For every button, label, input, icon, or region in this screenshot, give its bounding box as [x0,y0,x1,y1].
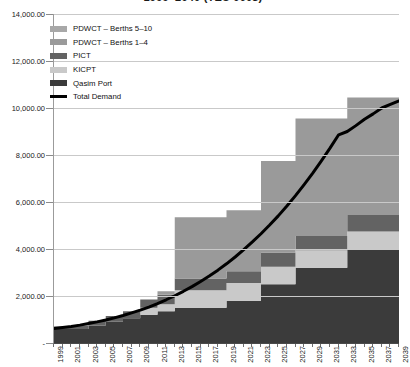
x-axis-tick-label: 2009 [142,346,151,363]
x-axis-tick-label: 2031 [332,346,341,363]
chart-title: 1999–2040 (TEU 000s) [0,0,406,3]
legend-item[interactable]: Total Demand [50,90,152,104]
x-axis-tick-label: 2027 [298,346,307,363]
y-axis-tick [46,296,53,297]
x-axis-tick-label: 2019 [229,346,238,363]
legend-item-label: PDWCT – Berths 1–4 [73,38,148,47]
x-axis-tick [312,344,313,347]
legend-item-label: PICT [73,51,91,60]
x-axis-tick [174,344,175,347]
y-axis-tick-label: 14,000.00 [12,10,45,19]
y-axis-tick [46,108,53,109]
gridline [54,296,399,297]
x-axis-tick [381,344,382,347]
y-axis-tick [46,155,53,156]
legend-swatch-icon [50,67,67,73]
legend-item[interactable]: KICPT [50,63,152,77]
legend-swatch-icon [50,26,67,32]
y-axis-tick-label: 12,000.00 [12,57,45,66]
x-axis-tick-label: 1999 [56,346,65,363]
x-axis-tick-label: 2005 [108,346,117,363]
legend-swatch-icon [50,39,67,45]
x-axis-tick-label: 2013 [177,346,186,363]
legend-item[interactable]: Qasim Port [50,76,152,90]
x-axis-tick-label: 2017 [211,346,220,363]
x-axis-tick [53,344,54,347]
y-axis-tick-label: 6,000.00 [16,198,45,207]
x-axis-tick [346,344,347,347]
x-axis-tick [191,344,192,347]
legend-item[interactable]: PDWCT – Berths 5–10 [50,22,152,36]
legend-item-label: Total Demand [73,92,121,101]
x-axis-tick-label: 2021 [246,346,255,363]
x-axis-tick-label: 2015 [194,346,203,363]
y-axis-tick-label: 4,000.00 [16,245,45,254]
gridline [54,14,399,15]
y-axis: -2,000.004,000.006,000.008,000.0010,000.… [0,0,53,367]
y-axis-tick [46,202,53,203]
x-axis-tick [88,344,89,347]
x-axis-tick [277,344,278,347]
x-axis-tick-label: 2029 [315,346,324,363]
x-axis-tick [226,344,227,347]
legend-swatch-icon [50,80,67,86]
x-axis: 1999200120032005200720092011201320152017… [0,344,406,367]
legend-swatch-icon [50,95,67,98]
chart-legend: PDWCT – Berths 5–10PDWCT – Berths 1–4PIC… [50,22,152,104]
gridline [54,108,399,109]
legend-item[interactable]: PICT [50,49,152,63]
gridline [54,202,399,203]
x-axis-tick [243,344,244,347]
x-axis-tick [295,344,296,347]
x-axis-tick [105,344,106,347]
x-axis-tick [398,344,399,347]
x-axis-tick-label: 2035 [367,346,376,363]
y-axis-tick-label: 2,000.00 [16,292,45,301]
x-axis-tick-label: 2011 [160,346,169,362]
x-axis-tick-label: 2033 [349,346,358,363]
gridline [54,155,399,156]
y-axis-tick-label: 10,000.00 [12,104,45,113]
x-axis-tick-label: 2023 [263,346,272,363]
legend-item-label: Qasim Port [73,79,112,88]
x-axis-tick-label: 2037 [384,346,393,363]
gridline [54,249,399,250]
legend-item-label: KICPT [73,65,96,74]
x-axis-tick [260,344,261,347]
x-axis-tick-label: 2007 [125,346,134,363]
y-axis-tick [46,249,53,250]
x-axis-tick-label: 2039 [401,346,410,363]
x-axis-tick [122,344,123,347]
x-axis-tick-label: 2025 [280,346,289,363]
y-axis-tick [46,14,53,15]
x-axis-tick [329,344,330,347]
x-axis-tick [70,344,71,347]
x-axis-tick [364,344,365,347]
x-axis-tick [208,344,209,347]
x-axis-tick [157,344,158,347]
x-axis-tick [139,344,140,347]
y-axis-tick-label: 8,000.00 [16,151,45,160]
legend-item[interactable]: PDWCT – Berths 1–4 [50,36,152,50]
x-axis-tick-label: 2003 [91,346,100,363]
x-axis-tick-label: 2001 [73,346,82,363]
legend-swatch-icon [50,53,67,59]
legend-item-label: PDWCT – Berths 5–10 [73,24,152,33]
